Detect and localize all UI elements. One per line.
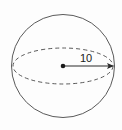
center-dot-icon <box>61 64 66 69</box>
radius-label: 10 <box>80 52 92 64</box>
sphere-diagram: 10 <box>0 0 122 130</box>
sphere-figure-svg: 10 <box>0 0 122 130</box>
